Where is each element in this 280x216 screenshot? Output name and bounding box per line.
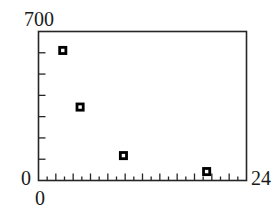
scatter-plot: 700 0 0 24	[0, 0, 280, 216]
data-point-inner	[61, 49, 64, 52]
y-axis-min-label: 0	[21, 168, 31, 188]
data-point-inner	[205, 170, 208, 173]
plot-canvas	[0, 0, 280, 216]
x-axis-max-label: 24	[251, 168, 271, 188]
data-point	[76, 103, 85, 112]
y-axis-ticks	[39, 53, 46, 159]
data-point	[119, 151, 128, 160]
x-axis-min-label: 0	[35, 188, 45, 208]
data-markers	[58, 46, 211, 176]
plot-frame	[39, 32, 247, 181]
data-point-inner	[78, 105, 81, 108]
data-point-inner	[122, 154, 125, 157]
data-point	[202, 167, 211, 176]
y-axis-max-label: 700	[24, 9, 54, 29]
data-point	[58, 46, 67, 55]
